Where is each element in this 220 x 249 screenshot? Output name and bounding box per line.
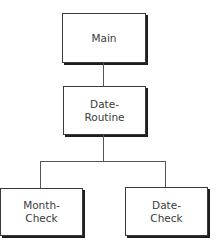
connector-branch-horizontal [40, 161, 166, 162]
node-date-routine: Date- Routine [63, 86, 146, 135]
node-month-check: Month- Check [0, 188, 83, 236]
node-main-label-line-1: Main [91, 32, 116, 45]
node-main: Main [62, 13, 146, 63]
node-date-check-label-line-1: Date- [152, 199, 181, 212]
hierarchy-diagram: Main Date- Routine Month- Check Date- Ch… [0, 0, 220, 249]
connector-to-month-check [40, 161, 41, 188]
node-month-check-label-line-1: Month- [23, 199, 60, 212]
node-date-check-label-line-2: Check [150, 212, 182, 225]
node-date-check: Date- Check [125, 187, 208, 236]
connector-to-date-check [165, 161, 166, 187]
node-month-check-label-line-2: Check [25, 212, 57, 225]
node-date-routine-label-line-2: Routine [84, 111, 124, 124]
connector-main-to-date-routine [103, 63, 104, 86]
connector-date-routine-trunk [103, 135, 104, 162]
node-date-routine-label-line-1: Date- [90, 98, 119, 111]
